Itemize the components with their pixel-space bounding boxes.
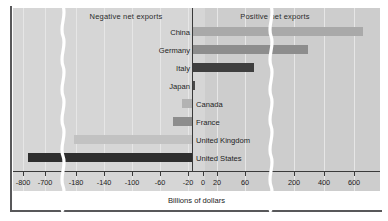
- axis-tick-label: -800: [16, 178, 31, 187]
- bar-france: [173, 117, 192, 126]
- axis-tick-label: -700: [38, 178, 53, 187]
- axis-tick: [294, 171, 295, 176]
- axis-tick: [354, 171, 355, 176]
- axis-tick-label: -100: [125, 178, 140, 187]
- x-axis-label: Billions of dollars: [13, 196, 380, 205]
- axis-tick-label: 20: [213, 178, 221, 187]
- axis-tick: [76, 171, 77, 176]
- axis-tick-label: 600: [348, 178, 360, 187]
- axis-tick: [217, 171, 218, 176]
- axis-tick: [245, 171, 246, 176]
- axis-tick-label: 200: [288, 178, 300, 187]
- axis-tick-label: 60: [241, 178, 249, 187]
- axis-tick: [132, 171, 133, 176]
- axis-tick: [203, 171, 204, 176]
- bar-label-united-kingdom: United Kingdom: [196, 136, 250, 145]
- axis-tick-label: -20: [183, 178, 194, 187]
- axis-tick-label: 0: [201, 178, 205, 187]
- bar-label-united-states: United States: [196, 154, 242, 163]
- bar-united-kingdom: [74, 135, 192, 144]
- bar-germany: [193, 45, 308, 54]
- bar-label-china: China: [60, 28, 193, 37]
- axis-tick: [188, 171, 189, 176]
- axis-tick: [160, 171, 161, 176]
- chart-figure: Negative net exports Positive net export…: [0, 0, 388, 221]
- bar-series: ChinaGermanyItalyJapanCanadaFranceUnited…: [0, 0, 388, 221]
- axis-tick-label: -60: [155, 178, 166, 187]
- bar-china: [193, 27, 363, 36]
- bar-japan: [193, 81, 195, 90]
- bar-label-italy: Italy: [60, 64, 193, 73]
- bar-canada: [182, 99, 192, 108]
- axis-tick: [104, 171, 105, 176]
- bar-label-japan: Japan: [60, 82, 193, 91]
- axis-tick: [324, 171, 325, 176]
- axis-tick-label: 400: [318, 178, 330, 187]
- bar-united-states: [28, 153, 192, 162]
- bar-label-france: France: [196, 118, 220, 127]
- bar-label-germany: Germany: [60, 46, 193, 55]
- bar-italy: [193, 63, 254, 72]
- axis-tick: [45, 171, 46, 176]
- axis-tick: [23, 171, 24, 176]
- axis-tick-label: -140: [97, 178, 112, 187]
- bar-label-canada: Canada: [196, 100, 223, 109]
- axis-tick-label: -180: [69, 178, 84, 187]
